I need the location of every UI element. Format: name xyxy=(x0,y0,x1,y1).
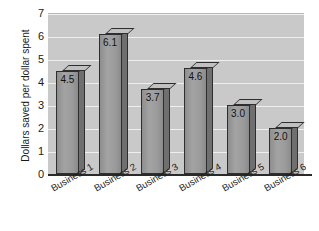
bar: 3.0 xyxy=(227,105,250,174)
y-tick-label: 7 xyxy=(30,8,44,19)
y-axis-ticks: 01234567 xyxy=(26,0,44,231)
y-tick-label: 5 xyxy=(30,54,44,65)
gridline xyxy=(48,129,304,130)
y-tick-label: 6 xyxy=(30,31,44,42)
y-tick-label: 4 xyxy=(30,77,44,88)
bar: 3.7 xyxy=(141,89,164,174)
bar-value-label: 4.5 xyxy=(56,74,79,85)
bar-side-face xyxy=(122,28,128,174)
gridline xyxy=(48,14,304,15)
bar-value-label: 3.7 xyxy=(141,92,164,103)
y-tick-label: 0 xyxy=(30,169,44,180)
bar-side-face xyxy=(79,65,85,175)
bar: 4.5 xyxy=(56,71,79,175)
bar-value-label: 6.1 xyxy=(99,37,122,48)
bar-side-face xyxy=(164,83,170,174)
bar-front-face xyxy=(56,71,79,175)
gridline xyxy=(48,60,304,61)
gridline xyxy=(48,37,304,38)
bar-value-label: 2.0 xyxy=(269,131,292,142)
gridline xyxy=(48,152,304,153)
bar: 6.1 xyxy=(99,34,122,174)
y-tick-label: 1 xyxy=(30,146,44,157)
bar-front-face xyxy=(99,34,122,174)
bar-front-face xyxy=(184,68,207,174)
y-tick-label: 3 xyxy=(30,100,44,111)
bar: 4.6 xyxy=(184,68,207,174)
plot-area: 4.56.13.74.63.02.0 xyxy=(48,13,304,174)
bar-chart: Dollars saved per dollar spent 01234567 … xyxy=(0,0,319,231)
bar-value-label: 3.0 xyxy=(227,108,250,119)
y-tick-label: 2 xyxy=(30,123,44,134)
bar-side-face xyxy=(207,62,213,174)
bar-value-label: 4.6 xyxy=(184,71,207,82)
gridline xyxy=(48,106,304,107)
